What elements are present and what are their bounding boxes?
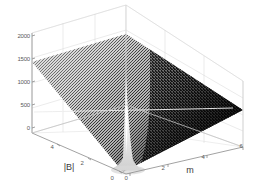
y-tick-label-4: 4 (50, 144, 53, 150)
z-tick-label-0: 0 (27, 125, 30, 131)
y-axis-label: |B| (64, 163, 75, 172)
plot-axes (0, 0, 256, 191)
z-tick-label-500: 500 (21, 102, 30, 108)
z-tick-label-2000: 2000 (17, 33, 30, 39)
x-tick-label-0: 0 (124, 175, 127, 181)
y-tick-label-2: 2 (80, 160, 83, 166)
x-tick-label-6: 6 (239, 143, 242, 149)
x-tick-label-2: 2 (161, 165, 164, 171)
x-axis-label: m (186, 166, 194, 175)
z-tick-label-1500: 1500 (17, 56, 30, 62)
z-tick-label-1000: 1000 (17, 79, 30, 85)
x-tick-label-4: 4 (201, 154, 204, 160)
figure-canvas: 2000 1500 1000 500 0 4 2 0 0 2 4 6 |B| m (0, 0, 256, 191)
y-tick-label-0: 0 (110, 175, 113, 181)
